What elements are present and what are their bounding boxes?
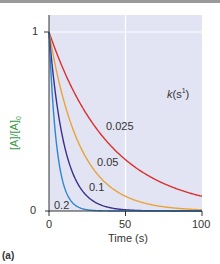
y-tick-label-0: 0 [30,204,36,216]
curve-label-0.1: 0.1 [89,181,104,193]
x-tick-label-0: 0 [46,218,52,230]
y-axis-label-text: [A]/[A] [8,120,20,150]
x-axis-label: Time (s) [108,232,148,244]
curve-label-0.05: 0.05 [97,156,118,168]
y-axis-label-sub: 0 [15,116,22,120]
curve-label-0.2: 0.2 [54,199,69,211]
x-tick-label-100: 100 [192,218,210,230]
panel-label: (a) [2,250,14,261]
curve-label-0.025: 0.025 [106,120,134,132]
y-tick-label-1: 1 [32,25,38,37]
top-bar [0,0,220,3]
legend-title: k(s1) [167,87,189,100]
x-tick-label-50: 50 [119,218,131,230]
chart-plot [0,0,220,264]
legend-unit: (s [173,88,182,100]
legend-close: ) [186,88,190,100]
y-axis-label: [A]/[A]0 [8,116,22,150]
